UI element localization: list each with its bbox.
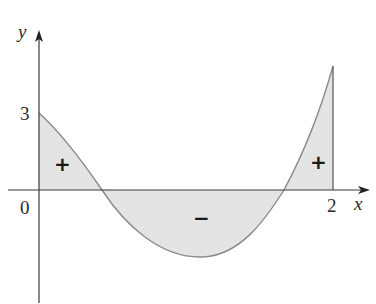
positive-sign-left: + — [54, 154, 71, 174]
x-tick-2-label: 2 — [327, 196, 337, 215]
origin-label: 0 — [20, 198, 30, 217]
positive-sign-right: + — [310, 152, 327, 172]
y-tick-3-label: 3 — [20, 104, 30, 123]
x-axis-label: x — [354, 194, 362, 213]
negative-sign-middle: − — [193, 208, 210, 228]
y-axis-label: y — [18, 22, 26, 41]
area-under-curve-figure: y 3 0 2 x + − + — [0, 0, 376, 304]
shaded-region — [39, 66, 333, 257]
